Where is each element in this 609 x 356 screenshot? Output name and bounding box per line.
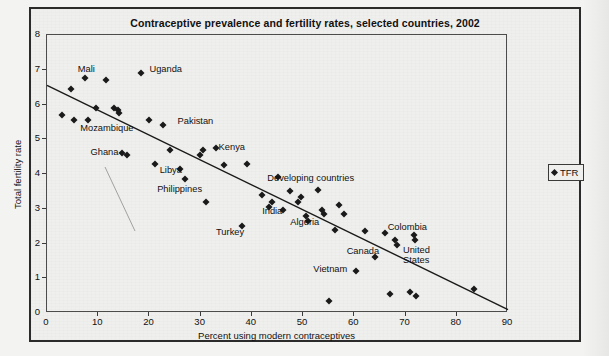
annotation-india: India — [262, 206, 282, 216]
y-tick-label-8: 8 — [24, 28, 40, 39]
annotation-uganda: Uganda — [149, 64, 182, 74]
chart-title: Contraceptive prevalence and fertility r… — [31, 17, 579, 29]
data-point — [202, 198, 209, 205]
x-tick-mark — [456, 312, 457, 316]
data-point — [341, 210, 348, 217]
data-point — [361, 228, 368, 235]
data-point — [70, 117, 77, 124]
data-point — [412, 292, 419, 299]
x-tick-label-60: 60 — [339, 316, 367, 327]
y-tick-label-4: 4 — [24, 167, 40, 178]
annotation-pakistan: Pakistan — [178, 116, 214, 126]
y-tick-label-6: 6 — [24, 98, 40, 109]
y-tick-label-7: 7 — [24, 63, 40, 74]
annotation-turkey: Turkey — [216, 227, 244, 237]
data-point — [353, 268, 360, 275]
x-tick-mark — [148, 312, 149, 316]
x-tick-mark — [405, 312, 406, 316]
x-tick-label-90: 90 — [493, 316, 521, 327]
x-tick-label-80: 80 — [442, 316, 470, 327]
x-tick-mark — [97, 312, 98, 316]
plot-area: MaliUgandaMozambiquePakistanGhanaKenyaLi… — [46, 34, 507, 312]
data-point — [315, 186, 322, 193]
y-tick-label-3: 3 — [24, 202, 40, 213]
data-point — [221, 162, 228, 169]
data-point — [287, 188, 294, 195]
x-tick-label-0: 0 — [32, 316, 60, 327]
data-point — [82, 75, 89, 82]
figure-frame: Contraceptive prevalence and fertility r… — [29, 7, 581, 342]
x-tick-mark — [353, 312, 354, 316]
data-point — [394, 242, 401, 249]
data-point — [151, 160, 158, 167]
x-tick-label-30: 30 — [186, 316, 214, 327]
data-point — [411, 236, 418, 243]
data-point — [331, 226, 338, 233]
x-tick-label-50: 50 — [288, 316, 316, 327]
data-point — [182, 176, 189, 183]
data-point — [298, 193, 305, 200]
data-point — [59, 111, 66, 118]
x-tick-mark — [200, 312, 201, 316]
x-tick-label-20: 20 — [134, 316, 162, 327]
data-point — [259, 191, 266, 198]
data-point — [320, 210, 327, 217]
data-point — [159, 122, 166, 129]
diamond-icon — [551, 169, 558, 176]
data-point — [103, 77, 110, 84]
data-point — [243, 160, 250, 167]
data-point — [115, 110, 122, 117]
data-point — [387, 290, 394, 297]
annotation-philippines: Philippines — [157, 184, 202, 194]
legend-tfr[interactable]: TFR — [548, 164, 584, 181]
data-point — [138, 70, 145, 77]
data-point — [471, 285, 478, 292]
annotation-developing-countries: Developing countries — [267, 173, 354, 183]
data-point — [93, 104, 100, 111]
x-tick-mark — [302, 312, 303, 316]
data-point — [335, 202, 342, 209]
annotation-colombia: Colombia — [388, 222, 427, 232]
annotation-ghana: Ghana — [91, 147, 119, 157]
annotation-kenya: Kenya — [219, 142, 245, 152]
screenshot-page: Contraceptive prevalence and fertility r… — [0, 0, 609, 356]
y-tick-label-5: 5 — [24, 132, 40, 143]
annotation-mali: Mali — [78, 64, 95, 74]
data-point — [269, 198, 276, 205]
data-point — [67, 85, 74, 92]
annotation-canada: Canada — [347, 246, 380, 256]
x-axis-title: Percent using modern contraceptives — [198, 330, 355, 341]
x-tick-mark — [251, 312, 252, 316]
legend-label: TFR — [560, 167, 578, 178]
data-point — [325, 297, 332, 304]
annotation-libya: Libya — [160, 165, 182, 175]
x-tick-label-70: 70 — [391, 316, 419, 327]
y-axis-title: Total fertility rate — [12, 140, 23, 209]
y-tick-label-1: 1 — [24, 271, 40, 282]
data-point — [123, 151, 130, 158]
data-point — [166, 146, 173, 153]
annotation-algeria: Algeria — [290, 217, 319, 227]
annotation-united-states: United States — [403, 246, 445, 266]
page-edge-shadow — [583, 0, 609, 356]
data-point — [146, 117, 153, 124]
y-tick-label-2: 2 — [24, 237, 40, 248]
annotation-vietnam: Vietnam — [313, 264, 347, 274]
annotation-mozambique: Mozambique — [80, 123, 133, 133]
x-tick-label-10: 10 — [83, 316, 111, 327]
x-tick-label-40: 40 — [237, 316, 265, 327]
